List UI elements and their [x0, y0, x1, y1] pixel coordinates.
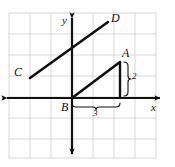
measure-label-horizontal: 3 [93, 109, 98, 118]
geometry-figure: C D A B y x 2 3 [0, 0, 175, 167]
line-segment-CD [30, 22, 108, 78]
x-axis-label: x [151, 102, 156, 113]
grid-lines [9, 13, 156, 158]
figure-canvas [0, 0, 175, 167]
measure-label-vertical: 2 [132, 72, 137, 81]
point-label-D: D [111, 12, 120, 24]
point-label-A: A [122, 47, 129, 59]
brace-vertical-2 [124, 62, 131, 96]
triangle-hypotenuse [72, 62, 120, 98]
point-label-C: C [14, 66, 22, 78]
point-label-B: B [61, 101, 68, 113]
y-axis-label: y [62, 15, 67, 26]
